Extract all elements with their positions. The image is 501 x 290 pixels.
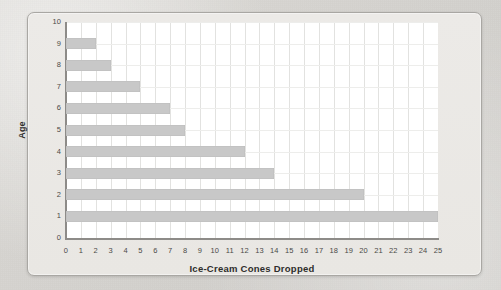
y-tick-4: 4 <box>39 148 61 156</box>
y-tick-3: 3 <box>39 169 61 177</box>
y-tick-7: 7 <box>39 83 61 91</box>
chart-page: 012345678910 012345678910111213141516171… <box>0 0 501 290</box>
bar-age-8 <box>66 60 111 71</box>
bar-age-2 <box>66 189 364 200</box>
plot-area-wrapper: 012345678910 012345678910111213141516171… <box>66 22 438 238</box>
chart-card: 012345678910 012345678910111213141516171… <box>27 12 482 276</box>
y-tick-1: 1 <box>39 213 61 221</box>
bar-age-9 <box>66 38 96 49</box>
x-tick-25: 25 <box>428 247 448 255</box>
bar-age-3 <box>66 168 274 179</box>
x-axis-title: Ice-Cream Cones Dropped <box>66 263 438 274</box>
bar-age-1 <box>66 211 438 222</box>
bar-age-4 <box>66 146 245 157</box>
x-axis-tick-labels: 0123456789101112131415161718192021222324… <box>66 247 438 259</box>
bar-age-6 <box>66 103 170 114</box>
bar-age-5 <box>66 125 185 136</box>
y-tick-6: 6 <box>39 105 61 113</box>
y-tick-0: 0 <box>39 234 61 242</box>
y-axis-tick-labels: 012345678910 <box>39 22 61 238</box>
bar-age-7 <box>66 81 140 92</box>
y-tick-10: 10 <box>39 18 61 26</box>
y-tick-5: 5 <box>39 126 61 134</box>
y-axis-title: Age <box>17 121 27 139</box>
x-axis-line <box>65 238 439 240</box>
y-tick-9: 9 <box>39 40 61 48</box>
y-tick-2: 2 <box>39 191 61 199</box>
y-tick-8: 8 <box>39 61 61 69</box>
